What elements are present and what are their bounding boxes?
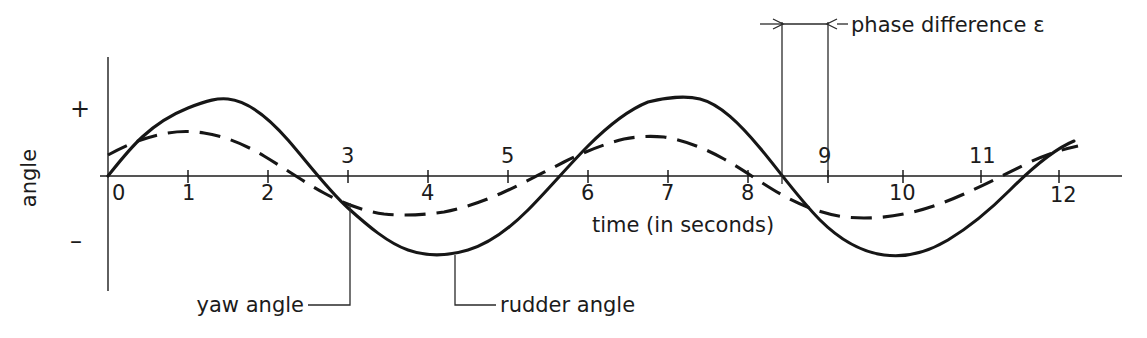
x-tick-label-12: 12: [1050, 183, 1077, 207]
x-tick-label-6: 6: [581, 181, 594, 205]
yaw-angle-label: yaw angle: [197, 293, 304, 317]
x-tick-label-10: 10: [889, 181, 916, 205]
x-tick-label-7: 7: [661, 181, 674, 205]
y-positive-sign: +: [70, 95, 90, 123]
x-axis-title: time (in seconds): [592, 213, 774, 237]
yaw-angle-leader: [308, 203, 350, 305]
x-tick-label-1: 1: [182, 181, 195, 205]
x-tick-label-0: 0: [112, 181, 125, 205]
x-tick-label-5: 5: [501, 144, 514, 168]
rudder-angle-leader: [455, 255, 496, 305]
phase-difference-annotation: phase difference ε: [760, 13, 1045, 184]
x-tick-label-8: 8: [741, 181, 754, 205]
rudder-angle-label: rudder angle: [500, 293, 635, 317]
figure-canvas: 0 1 2 3 4 5 6 7 8 9 10 11 12 + – angle t…: [0, 0, 1147, 338]
curve-yaw-angle: [108, 132, 1078, 219]
callout-leaders: [308, 203, 496, 305]
y-axis-title: angle: [17, 149, 41, 207]
x-tick-label-11: 11: [969, 144, 996, 168]
axes-group: [100, 57, 1122, 291]
phase-difference-label: phase difference ε: [851, 13, 1045, 37]
y-axis-sign-labels: + –: [70, 95, 90, 255]
x-tick-label-4: 4: [421, 181, 434, 205]
y-negative-sign: –: [70, 227, 82, 255]
x-tick-label-3: 3: [341, 144, 354, 168]
x-tick-label-9: 9: [818, 144, 831, 168]
x-tick-label-2: 2: [261, 181, 274, 205]
oscillation-plot: 0 1 2 3 4 5 6 7 8 9 10 11 12 + – angle t…: [0, 0, 1147, 338]
